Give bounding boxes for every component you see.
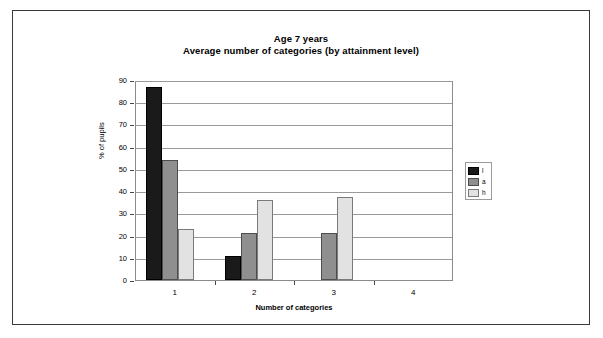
chart-title: Age 7 years — [13, 33, 589, 45]
y-axis-tick-label: 30 — [103, 210, 127, 218]
gridline — [136, 170, 452, 171]
gridline — [136, 148, 452, 149]
y-axis-tick — [130, 259, 134, 260]
y-axis-tick — [130, 81, 134, 82]
bar-l-cat-2 — [225, 256, 241, 280]
gridline — [136, 125, 452, 126]
x-axis-tick-label-4: 4 — [393, 288, 433, 297]
y-axis-tick — [130, 192, 134, 193]
chart-title-block: Age 7 years Average number of categories… — [13, 33, 589, 57]
y-axis-tick — [130, 170, 134, 171]
y-axis-tick — [130, 214, 134, 215]
y-axis-tick — [130, 281, 134, 282]
gridline — [136, 192, 452, 193]
bar-h-cat-3 — [337, 197, 353, 280]
legend-label-h: h — [482, 189, 486, 197]
bar-l-cat-1 — [146, 87, 162, 280]
x-axis-tick-label-2: 2 — [234, 288, 274, 297]
y-axis-tick-label: 40 — [103, 188, 127, 196]
y-axis-tick — [130, 237, 134, 238]
x-axis-tick-label-1: 1 — [155, 288, 195, 297]
legend-label-a: a — [482, 178, 486, 186]
x-axis-ticks — [135, 281, 453, 287]
gridline — [136, 214, 452, 215]
plot-inner — [136, 81, 452, 280]
bar-a-cat-1 — [162, 160, 178, 280]
chart-legend: lah — [465, 162, 492, 200]
plot-area — [135, 81, 453, 281]
legend-item-a[interactable]: a — [468, 176, 489, 187]
y-axis-tick — [130, 103, 134, 104]
y-axis-tick-label: 90 — [103, 77, 127, 85]
legend-item-h[interactable]: h — [468, 187, 489, 198]
y-axis-tick-label: 60 — [103, 144, 127, 152]
gridline — [136, 81, 452, 82]
y-axis-tick — [130, 148, 134, 149]
x-axis-tick-label-3: 3 — [314, 288, 354, 297]
x-axis-tick — [374, 281, 375, 285]
y-axis-tick-label: 0 — [103, 277, 127, 285]
chart-figure-frame: Age 7 years Average number of categories… — [12, 10, 590, 325]
bar-a-cat-3 — [321, 233, 337, 280]
y-axis-tick-label: 50 — [103, 166, 127, 174]
legend-swatch-h — [468, 189, 479, 197]
gridline — [136, 103, 452, 104]
y-axis-tick-label: 10 — [103, 255, 127, 263]
x-axis-labels: 1234 — [135, 288, 453, 300]
legend-swatch-l — [468, 167, 479, 175]
bar-a-cat-2 — [241, 233, 257, 280]
x-axis-tick — [215, 281, 216, 285]
y-axis-tick-label: 70 — [103, 121, 127, 129]
chart-subtitle: Average number of categories (by attainm… — [13, 45, 589, 57]
bar-h-cat-2 — [257, 200, 273, 280]
x-axis-title: Number of categories — [135, 303, 453, 312]
legend-item-l[interactable]: l — [468, 165, 489, 176]
legend-swatch-a — [468, 178, 479, 186]
bar-h-cat-1 — [178, 229, 194, 280]
y-axis-tick-label: 20 — [103, 233, 127, 241]
y-axis-tick-label: 80 — [103, 99, 127, 107]
legend-label-l: l — [482, 167, 483, 175]
y-axis-tick — [130, 125, 134, 126]
x-axis-tick — [294, 281, 295, 285]
